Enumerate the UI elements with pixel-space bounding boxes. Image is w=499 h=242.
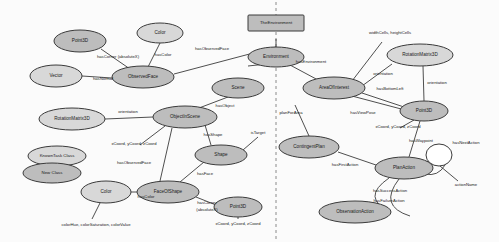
- node-area-of-interest[interactable]: AreaOfInterest: [303, 77, 365, 99]
- label-orientation-left: orientation: [118, 109, 138, 114]
- legend-new-class[interactable]: New Class: [23, 163, 81, 183]
- diagram-canvas: TheEnvironment Point3D Color Vector Obse…: [0, 0, 499, 242]
- color-top-label: Color: [155, 30, 166, 35]
- node-the-environment[interactable]: TheEnvironment: [248, 15, 304, 31]
- face-of-shape-label: FaceOfShape: [154, 189, 183, 194]
- node-point3d-left[interactable]: Point3D: [54, 30, 106, 52]
- label-x-y-z-coord-bottom: xCoord, yCoord, zCoord: [215, 221, 261, 226]
- label-is-target: isTarget: [251, 130, 266, 135]
- edge-shape-istarget: [243, 137, 258, 150]
- legend-known-label: KnownTask Class: [40, 153, 75, 158]
- legend-new-label: New Class: [42, 170, 64, 175]
- label-has-failure-action: hasFailureAction: [373, 198, 405, 203]
- node-color-top[interactable]: Color: [137, 23, 183, 43]
- label-color-attrs: colorHue, colorSaturation, colorValue: [61, 222, 131, 227]
- label-has-first-action: hasFirstAction: [332, 162, 359, 167]
- node-scene[interactable]: Scene: [212, 78, 264, 98]
- node-point3d-bottom[interactable]: Point3D: [214, 197, 262, 217]
- vector-label: Vector: [49, 73, 62, 78]
- label-has-view-pose: hasViewPose: [350, 110, 376, 115]
- point3d-right-label: Point3D: [416, 108, 433, 113]
- label-has-observed-face-bottom: hasObservedFace: [117, 160, 152, 165]
- node-action-name-value[interactable]: [426, 144, 452, 166]
- rotation-matrix-right-label: RotationMatrix3D: [402, 52, 438, 57]
- node-rotation-matrix-left[interactable]: RotationMatrix3D: [39, 108, 105, 130]
- label-has-color-bottom: hasColor: [138, 194, 155, 199]
- node-color-bottom[interactable]: Color: [81, 181, 131, 203]
- label-has-next-action: hasNextAction: [453, 140, 481, 145]
- area-of-interest-label: AreaOfInterest: [319, 85, 350, 90]
- label-has-observed-face-top: hasObservedFace: [195, 46, 230, 51]
- label-action-name: actionName: [455, 182, 478, 187]
- rotation-matrix-left-label: RotationMatrix3D: [54, 116, 90, 121]
- node-observed-face[interactable]: ObservedFace: [112, 66, 174, 88]
- observed-face-label: ObservedFace: [128, 74, 159, 79]
- label-x-y-z-coord-right: xCoord, yCoord, zCoord: [375, 124, 421, 129]
- node-observation-action[interactable]: ObservationAction: [319, 201, 391, 223]
- node-vector[interactable]: Vector: [30, 65, 82, 87]
- scene-label: Scene: [231, 85, 244, 90]
- edge-actionname-label: [440, 166, 458, 181]
- plan-action-label: PlanAction: [393, 165, 415, 170]
- label-orientation-vertical: orientation: [427, 80, 447, 85]
- edge-rotation-point3d: [423, 66, 424, 101]
- label-has-face: hasFace: [197, 171, 214, 176]
- label-orientation-right: orientation: [373, 71, 393, 76]
- the-environment-label: TheEnvironment: [260, 20, 293, 25]
- label-has-normal: hasNormal: [93, 76, 113, 81]
- object-in-scene-label: ObjectInScene: [170, 114, 201, 119]
- environment-label: Environment: [263, 54, 290, 59]
- ontology-graph: TheEnvironment Point3D Color Vector Obse…: [0, 0, 499, 242]
- label-has-object: hasObject: [216, 103, 236, 108]
- label-has-waypoint: hasWaypoint: [409, 138, 434, 143]
- node-contingent-plan[interactable]: ContingentPlan: [279, 136, 339, 158]
- label-has-corner-left: hasCorner (absoluteX): [97, 54, 140, 59]
- label-has-bottom-left: hasBottomLeft: [376, 86, 404, 91]
- node-object-in-scene[interactable]: ObjectInScene: [153, 106, 217, 128]
- node-rotation-matrix-right[interactable]: RotationMatrix3D: [387, 44, 453, 66]
- action-name-value-ellipse: [426, 144, 452, 166]
- label-width-height-cells: widthCells, heightCells: [369, 30, 411, 35]
- node-face-of-shape[interactable]: FaceOfShape: [137, 181, 199, 203]
- point3d-left-label: Point3D: [72, 38, 89, 43]
- node-point3d-right[interactable]: Point3D: [400, 101, 448, 121]
- label-absolute-xyz: (absoluteX): [196, 207, 218, 212]
- label-has-color-top: hasColor: [155, 52, 172, 57]
- label-has-success-action: hasSuccessAction: [373, 188, 408, 193]
- label-has-corner-bottom: hasCorner: [197, 200, 217, 205]
- contingent-plan-label: ContingentPlan: [293, 144, 325, 149]
- shape-label: Shape: [214, 152, 228, 157]
- observation-action-label: ObservationAction: [336, 209, 374, 214]
- label-has-environment: hasEnvironment: [296, 59, 327, 64]
- edge-color-attrs: [92, 203, 100, 219]
- label-has-shape: hasShape: [204, 132, 224, 137]
- color-bottom-label: Color: [101, 189, 112, 194]
- label-plan-for-area: planForArea: [279, 110, 303, 115]
- edge-objectinscene-faceofshape: [160, 128, 172, 181]
- point3d-bottom-label: Point3D: [230, 204, 247, 209]
- edge-objectinscene-rotation: [105, 117, 153, 119]
- edge-environment-areaofinterest: [290, 65, 318, 80]
- node-plan-action[interactable]: PlanAction: [375, 157, 433, 179]
- label-x-y-z-coord-left: xCoord, yCoord, zCoord: [111, 141, 157, 146]
- node-shape[interactable]: Shape: [195, 145, 247, 165]
